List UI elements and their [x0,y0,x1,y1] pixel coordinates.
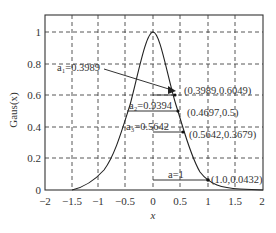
annotation-a3: a₃=0.5642 [126,121,169,132]
y-axis-ticks: 0 0.2 0.4 0.6 0.8 1 [27,26,41,196]
svg-text:1.5: 1.5 [228,195,242,207]
svg-text:2: 2 [259,195,265,207]
svg-text:0.2: 0.2 [27,152,41,164]
y-axis-label: Gaus(x) [7,92,20,128]
svg-text:0.6: 0.6 [27,89,41,101]
svg-text:−2: −2 [39,195,51,207]
point-label-2: (0.4697,0.5) [187,107,239,119]
gaus-chart: a₁=0.3989 a₂=0.9394 a₃=0.5642 a=1 (0.398… [0,0,276,233]
point-label-1: (0.3989,0.6049) [184,85,252,97]
point-label-3: (0.5642,0.3679) [189,129,257,141]
annotation-a2: a₂=0.9394 [129,100,173,111]
annotation-a1: a₁=0.3989 [57,62,100,73]
svg-text:−1.5: −1.5 [62,195,82,207]
point-label-4: (1.0,0.0432) [211,174,263,186]
x-axis-ticks: −2 −1.5 −1 −0.5 0 0.5 1 1.5 2 [39,195,265,207]
svg-text:1: 1 [36,26,42,38]
svg-text:0.8: 0.8 [27,58,41,70]
svg-text:−1: −1 [92,195,104,207]
arrow-head-icon [168,86,176,94]
svg-text:0.5: 0.5 [173,195,187,207]
svg-text:−0.5: −0.5 [115,195,135,207]
svg-text:0: 0 [150,195,156,207]
x-axis-label: x [150,209,156,221]
svg-text:1: 1 [205,195,211,207]
svg-text:0.4: 0.4 [27,121,41,133]
annotation-a: a=1 [168,169,184,180]
